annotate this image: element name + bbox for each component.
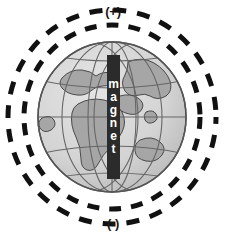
globe-graphic xyxy=(0,0,226,236)
negative-pole-label: (-) xyxy=(0,216,226,231)
magnetic-earth-figure: (+) xyxy=(0,0,226,236)
